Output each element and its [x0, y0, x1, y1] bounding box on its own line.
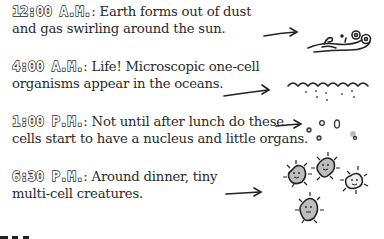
creatures-icon — [224, 152, 384, 237]
separator: : — [83, 59, 91, 74]
entry-line-1: 1:00 P.M.: Not until after lunch do thes… — [12, 113, 308, 130]
separator: : — [83, 169, 91, 184]
timeline-entry-3: 1:00 P.M.: Not until after lunch do thes… — [12, 113, 308, 147]
dust-swirl-icon — [262, 22, 377, 57]
separator: : — [91, 4, 99, 19]
entry-line-1: 12:00 A.M.: Earth forms out of dust — [12, 3, 251, 20]
cutoff-text-fragment — [0, 234, 34, 239]
entry-line-2: cells start to have a nucleus and little… — [12, 130, 308, 147]
entry-text: Around dinner, tiny — [92, 169, 218, 184]
entry-line-2: and gas swirling around the sun. — [12, 20, 251, 37]
entry-text: Earth forms out of dust — [100, 4, 252, 19]
time-label: 6:30 P.M. — [12, 168, 83, 184]
time-label: 4:00 A.M. — [12, 58, 83, 74]
time-label: 12:00 A.M. — [12, 3, 91, 19]
separator: : — [83, 114, 91, 129]
ocean-wave-icon — [222, 78, 382, 108]
entry-line-1: 4:00 A.M.: Life! Microscopic one-cell — [12, 58, 260, 75]
timeline-entry-1: 12:00 A.M.: Earth forms out of dust and … — [12, 3, 251, 37]
entry-text: Life! Microscopic one-cell — [92, 59, 260, 74]
timeline-entry-4: 6:30 P.M.: Around dinner, tiny multi-cel… — [12, 168, 217, 202]
entry-line-1: 6:30 P.M.: Around dinner, tiny — [12, 168, 217, 185]
entry-text: Not until after lunch do these — [92, 114, 284, 129]
cells-icon — [274, 112, 384, 146]
entry-line-2: multi-cell creatures. — [12, 185, 217, 202]
time-label: 1:00 P.M. — [12, 113, 83, 129]
